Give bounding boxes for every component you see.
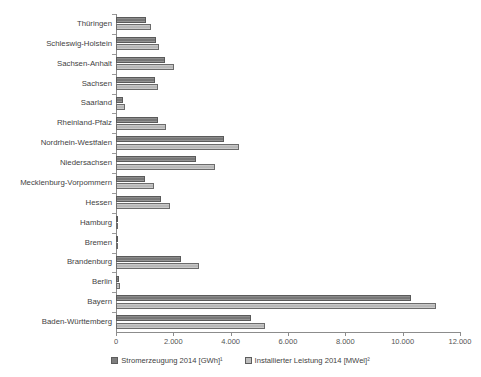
y-axis-tick [112,74,116,75]
y-axis-tick [112,193,116,194]
bar-installierte-leistung [116,84,158,90]
category-label: Thüringen [0,20,112,28]
category-label: Nordrhein-Westfalen [0,139,112,147]
legend-label: Stromerzeugung 2014 [GWh]¹ [121,356,222,365]
bar-installierte-leistung [116,144,239,150]
bar-stromerzeugung [116,295,411,301]
category-label: Sachsen-Anhalt [0,60,112,68]
bar-installierte-leistung [116,243,118,249]
bar-stromerzeugung [116,216,118,222]
bar-stromerzeugung [116,315,251,321]
x-axis-tick-label: 10.000 [391,337,414,346]
bar-stromerzeugung [116,156,196,162]
x-axis-tick [288,332,289,336]
x-axis-tick [403,332,404,336]
bar-stromerzeugung [116,97,123,103]
chart-legend: Stromerzeugung 2014 [GWh]¹ Installierter… [0,356,481,365]
bar-stromerzeugung [116,176,145,182]
category-label: Bremen [0,239,112,247]
y-axis-tick [112,233,116,234]
y-axis-tick [112,253,116,254]
category-label: Brandenburg [0,258,112,266]
bar-installierte-leistung [116,303,436,309]
y-axis-tick [112,94,116,95]
y-axis-tick [112,312,116,313]
bar-stromerzeugung [116,256,181,262]
bar-installierte-leistung [116,223,118,229]
bar-installierte-leistung [116,124,166,130]
bar-stromerzeugung [116,136,224,142]
x-axis-tick-label: 2.000 [164,337,183,346]
y-axis-tick [112,113,116,114]
y-axis-tick [112,153,116,154]
x-axis-tick-label: 8.000 [336,337,355,346]
y-axis-tick [112,213,116,214]
category-label: Baden-Württemberg [0,318,112,326]
category-label: Bayern [0,298,112,306]
category-label: Niedersachsen [0,159,112,167]
bar-stromerzeugung [116,77,155,83]
bar-stromerzeugung [116,236,118,242]
x-axis-tick [173,332,174,336]
legend-item-stromerzeugung: Stromerzeugung 2014 [GWh]¹ [111,356,222,365]
x-axis-tick-label: 0 [114,337,118,346]
x-axis-tick-label: 6.000 [279,337,298,346]
bar-installierte-leistung [116,24,151,30]
y-axis-tick [112,292,116,293]
category-label: Hamburg [0,219,112,227]
bar-stromerzeugung [116,37,156,43]
bar-stromerzeugung [116,276,119,282]
category-label: Hessen [0,199,112,207]
bar-installierte-leistung [116,44,159,50]
bar-installierte-leistung [116,283,120,289]
y-axis-tick [112,34,116,35]
y-axis-tick [112,173,116,174]
bar-stromerzeugung [116,196,161,202]
y-axis-tick [112,14,116,15]
x-axis-tick-label: 12.000 [449,337,472,346]
x-axis-tick [231,332,232,336]
bar-stromerzeugung [116,57,165,63]
legend-swatch-icon [111,357,118,364]
x-axis-tick [460,332,461,336]
bar-installierte-leistung [116,323,265,329]
bar-installierte-leistung [116,203,170,209]
bar-chart: ThüringenSchleswig-HolsteinSachsen-Anhal… [0,0,481,377]
bar-installierte-leistung [116,64,174,70]
bar-stromerzeugung [116,117,158,123]
x-axis-tick [116,332,117,336]
bar-installierte-leistung [116,164,215,170]
x-axis-tick-label: 4.000 [221,337,240,346]
category-label: Berlin [0,278,112,286]
legend-label: Installierter Leistung 2014 [MWel]² [255,356,370,365]
legend-item-installierte-leistung: Installierter Leistung 2014 [MWel]² [245,356,370,365]
category-label: Mecklenburg-Vorpommern [0,179,112,187]
category-label: Saarland [0,99,112,107]
bar-installierte-leistung [116,263,199,269]
category-label: Sachsen [0,80,112,88]
legend-swatch-icon [245,357,252,364]
bar-stromerzeugung [116,17,146,23]
plot-area [116,14,460,332]
bar-installierte-leistung [116,183,154,189]
category-label: Rheinland-Pfalz [0,119,112,127]
category-axis-labels: ThüringenSchleswig-HolsteinSachsen-Anhal… [0,14,112,332]
category-label: Schleswig-Holstein [0,40,112,48]
y-axis-tick [112,133,116,134]
y-axis-tick [112,272,116,273]
y-axis-tick [112,54,116,55]
x-axis-tick [345,332,346,336]
bar-installierte-leistung [116,104,125,110]
